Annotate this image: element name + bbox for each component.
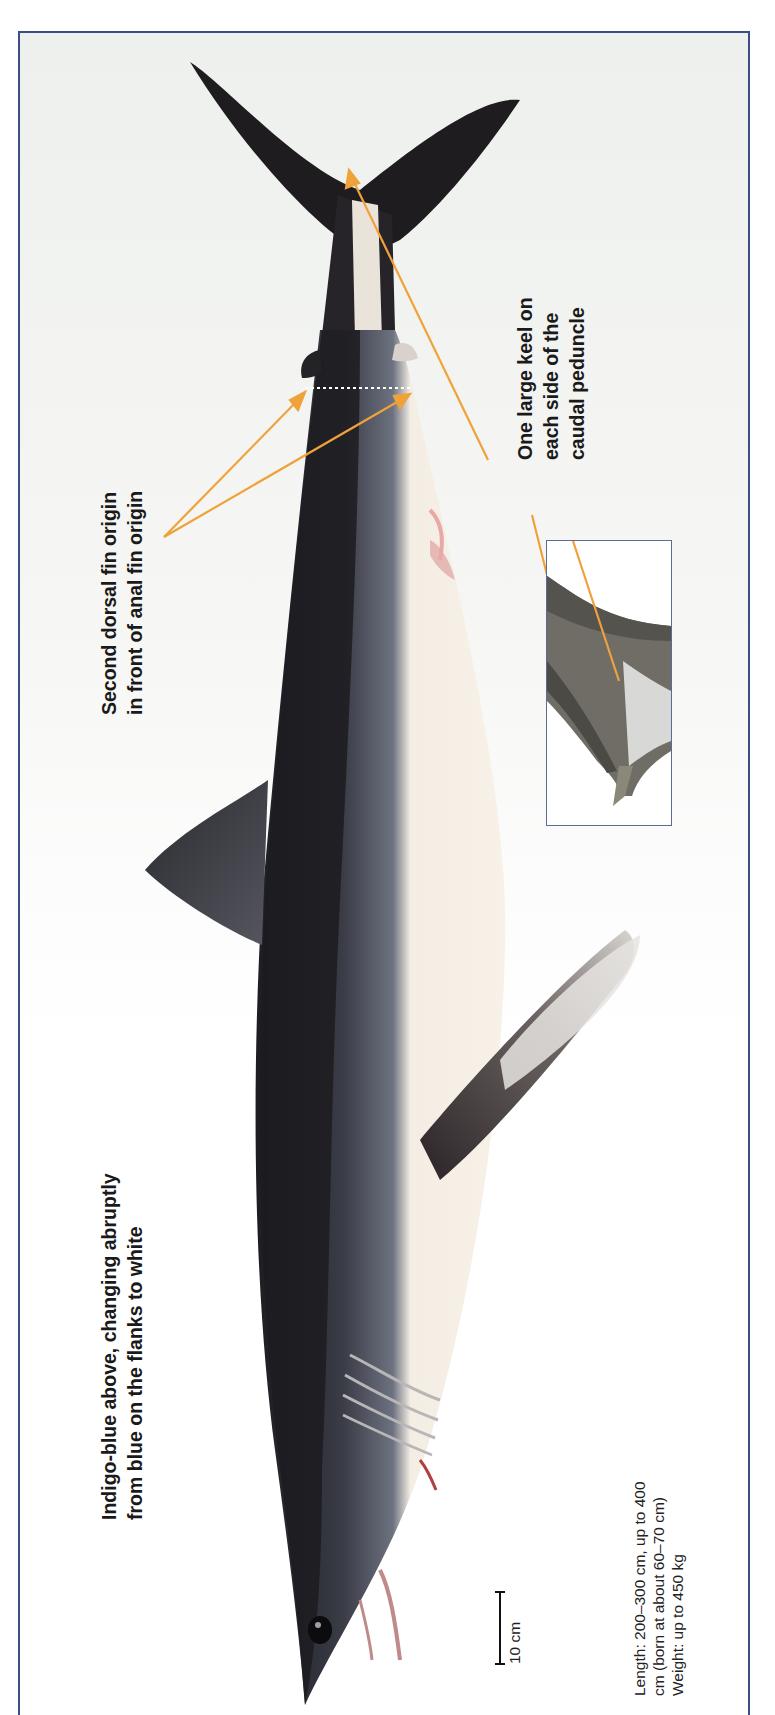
coloration-line-2: from blue on the flanks to white	[122, 1173, 148, 1520]
stats-weight: Weight: up to 450 kg	[668, 1481, 687, 1696]
second-dorsal-fin	[301, 350, 322, 378]
keel-inset	[546, 540, 672, 826]
dorsal-fin-line-2: in front of anal fin origin	[122, 491, 148, 715]
scale-bar-label: 10 cm	[505, 1622, 524, 1664]
dorsal-fin-annotation: Second dorsal fin origin in front of ana…	[96, 491, 148, 715]
keel-line-3: caudal peduncle	[564, 297, 590, 460]
keel-annotation: One large keel on each side of the cauda…	[512, 297, 590, 460]
stats-birth: cm (born at about 60–70 cm)	[649, 1481, 668, 1696]
eye	[308, 1616, 332, 1644]
keel-line-2: each side of the	[538, 297, 564, 460]
coloration-line-1: Indigo-blue above, changing abruptly	[96, 1173, 122, 1520]
anal-fin	[392, 343, 418, 361]
stats-length: Length: 200–300 cm, up to 400	[630, 1481, 649, 1696]
dorsal-fin-line-1: Second dorsal fin origin	[96, 491, 122, 715]
size-stats: Length: 200–300 cm, up to 400 cm (born a…	[630, 1481, 687, 1696]
scale-bar-graphic	[495, 1592, 505, 1664]
first-dorsal-fin	[145, 780, 268, 945]
keel-line-1: One large keel on	[512, 297, 538, 460]
coloration-annotation: Indigo-blue above, changing abruptly fro…	[96, 1173, 148, 1520]
